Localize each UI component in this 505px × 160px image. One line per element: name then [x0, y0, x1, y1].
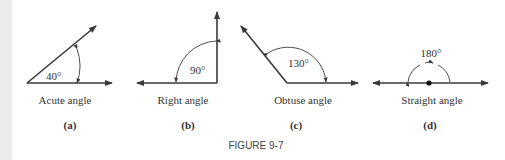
- angle-measure: 40°: [46, 70, 61, 82]
- angle-measure: 130°: [288, 57, 309, 69]
- ray-inclined: [241, 26, 287, 83]
- angle-measure: 90°: [190, 64, 205, 76]
- figure-caption: FIGURE 9-7: [228, 140, 283, 151]
- vertex-point: [426, 80, 431, 85]
- ray-inclined: [27, 26, 96, 83]
- angle-measure: 180°: [421, 47, 442, 59]
- angle-name: Obtuse angle: [274, 94, 332, 106]
- angle-arc-top: [425, 62, 433, 63]
- angle-name: Straight angle: [401, 94, 463, 106]
- panel-right-angle: 90° Right angle (b): [137, 12, 217, 132]
- panel-label: (b): [181, 119, 195, 132]
- panel-label: (a): [64, 119, 77, 132]
- angle-arc-left: [408, 65, 420, 82]
- angle-name: Acute angle: [39, 94, 92, 106]
- angle-arc-right: [438, 65, 450, 82]
- panel-label: (c): [290, 119, 303, 132]
- angle-name: Right angle: [157, 94, 208, 106]
- angles-diagram: 40° Acute angle (a) 90° Right angle (b) …: [0, 0, 505, 160]
- panel-label: (d): [423, 119, 437, 132]
- panel-straight-angle: 180° Straight angle (d): [373, 47, 488, 132]
- angle-arc: [77, 49, 80, 83]
- panel-acute-angle: 40° Acute angle (a): [27, 26, 112, 132]
- panel-obtuse-angle: 130° Obtuse angle (c): [241, 26, 358, 132]
